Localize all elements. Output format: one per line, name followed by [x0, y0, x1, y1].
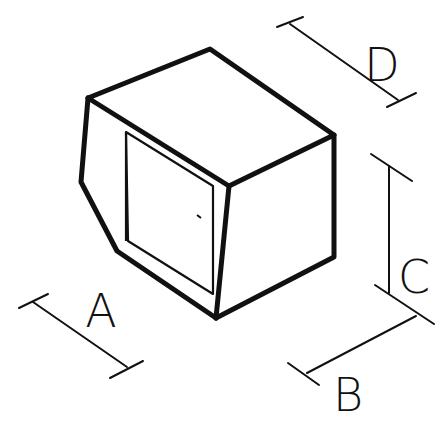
dimension-label-c: C	[398, 250, 430, 304]
dimension-label-b: B	[333, 368, 363, 422]
front-corner-edge	[216, 186, 229, 318]
door-panel	[126, 132, 213, 294]
dimension-a-line	[19, 294, 143, 378]
door-outline	[126, 132, 213, 294]
dimension-label-d: D	[364, 38, 399, 92]
dimension-diagram: D C B A	[0, 0, 444, 428]
dimension-label-a: A	[85, 284, 116, 338]
door-handle-icon	[197, 215, 201, 218]
